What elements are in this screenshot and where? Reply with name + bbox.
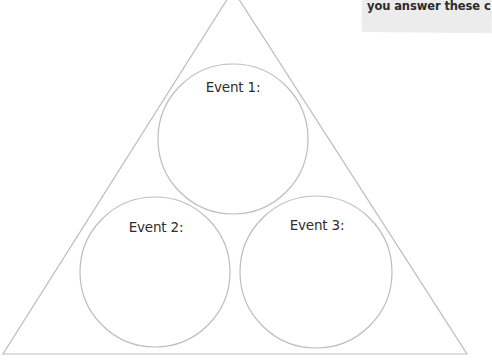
event-2-label: Event 2: [129, 219, 184, 235]
event-3-label: Event 3: [290, 217, 345, 233]
outer-triangle [3, 0, 467, 354]
event-1-label: Event 1: [206, 79, 261, 95]
